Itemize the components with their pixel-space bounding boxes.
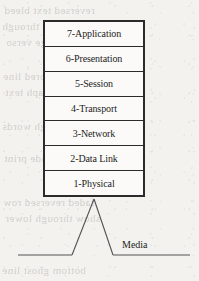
layer-row-1[interactable]: 1-Physical [45, 171, 143, 195]
layer-label-transport: 4-Transport [71, 103, 117, 114]
layer-row-4[interactable]: 4-Transport [45, 97, 143, 122]
layer-label-data-link: 2-Data Link [70, 153, 118, 164]
media-label: Media [122, 239, 148, 250]
layer-row-7[interactable]: 7-Application [45, 22, 143, 47]
layer-label-physical: 1-Physical [73, 178, 114, 189]
layer-label-application: 7-Application [67, 28, 121, 39]
layer-row-6[interactable]: 6-Presentation [45, 47, 143, 72]
osi-layer-stack: 7-Application 6-Presentation 5-Session 4… [43, 20, 145, 197]
layer-label-session: 5-Session [75, 78, 113, 89]
media-peak-left-leg [72, 199, 94, 255]
layer-row-5[interactable]: 5-Session [45, 72, 143, 97]
layer-row-2[interactable]: 2-Data Link [45, 146, 143, 171]
media-peak-right-leg [94, 199, 113, 255]
layer-row-3[interactable]: 3-Network [45, 121, 143, 146]
layer-label-network: 3-Network [73, 128, 115, 139]
layer-label-presentation: 6-Presentation [66, 53, 122, 64]
